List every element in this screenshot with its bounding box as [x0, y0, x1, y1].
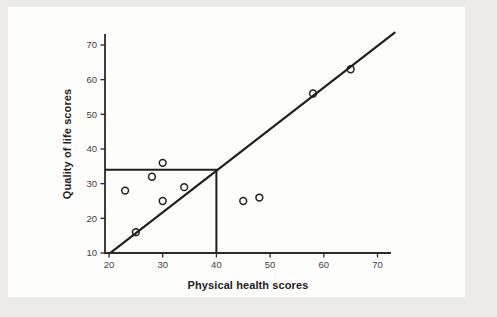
y-axis-title: Quality of life scores	[61, 89, 73, 199]
y-tick-label: 70	[86, 39, 97, 50]
x-tick-label: 30	[157, 259, 168, 270]
x-tick-label: 70	[372, 259, 383, 270]
y-tick-label: 10	[86, 247, 97, 258]
data-point	[181, 184, 188, 191]
x-tick-label: 20	[104, 259, 115, 270]
data-point	[122, 187, 129, 194]
y-tick-label: 30	[86, 178, 97, 189]
x-tick-label: 40	[211, 259, 222, 270]
x-tick-label: 50	[265, 259, 276, 270]
y-tick-label: 40	[86, 143, 97, 154]
x-tick-label: 60	[319, 259, 330, 270]
data-point	[149, 173, 156, 180]
y-tick-label: 60	[86, 74, 97, 85]
x-axis-title: Physical health scores	[105, 279, 391, 291]
y-tick-label: 20	[86, 213, 97, 224]
data-point	[240, 198, 247, 205]
scatter-plot: 20304050607010203040506070	[0, 0, 497, 317]
reference-lines	[105, 170, 216, 253]
y-tick-label: 50	[86, 109, 97, 120]
data-point	[256, 194, 263, 201]
data-point	[159, 198, 166, 205]
data-point	[159, 159, 166, 166]
